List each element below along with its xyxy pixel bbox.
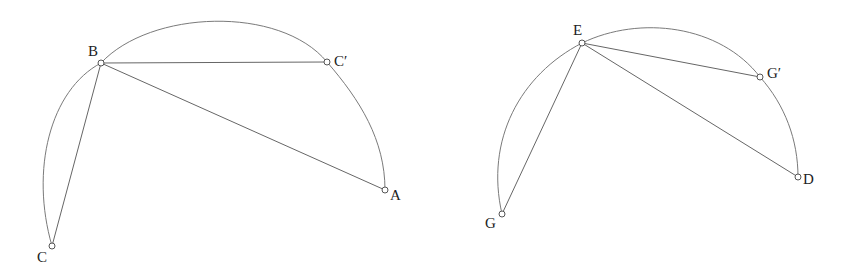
label-e: E (573, 22, 582, 38)
point-b (98, 60, 104, 66)
label-b: B (88, 43, 98, 59)
point-c (49, 243, 55, 249)
label-c: C (37, 249, 47, 265)
point-g-prime (757, 74, 763, 80)
point-g (499, 211, 505, 217)
segment-ed (582, 43, 798, 177)
point-c-prime (324, 59, 330, 65)
label-g: G (485, 215, 496, 231)
geometry-diagram: B C′ A C E G′ D G (0, 0, 841, 270)
label-a: A (390, 187, 401, 203)
label-g-prime: G′ (767, 65, 781, 81)
point-e (579, 40, 585, 46)
left-figure: B C′ A C (37, 21, 401, 265)
label-d: D (803, 171, 814, 187)
segment-bc (52, 63, 101, 246)
segment-ba (101, 63, 385, 190)
point-a (382, 187, 388, 193)
right-figure: E G′ D G (485, 22, 814, 231)
segment-eg (502, 43, 582, 214)
point-d (795, 174, 801, 180)
label-c-prime: C′ (334, 53, 347, 69)
segment-bc-prime (101, 62, 327, 63)
